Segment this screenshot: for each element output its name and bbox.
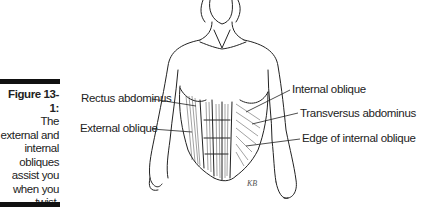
label-edge-internal-oblique: Edge of internal oblique [302, 132, 416, 144]
figure-number: Figure 13-1: [0, 88, 59, 115]
figure-caption: Figure 13-1: The external and internal o… [0, 88, 59, 210]
label-rectus-abdominus: Rectus abdominus [81, 92, 171, 104]
svg-text:KB: KB [246, 179, 257, 188]
label-transversus-abdominus: Transversus abdominus [300, 107, 416, 119]
label-external-oblique: External oblique [80, 122, 158, 134]
anatomy-illustration: KB Rectus abdominus External oblique Int… [60, 0, 430, 218]
caption-text: The external and internal obliques assis… [1, 115, 60, 208]
figure-caption-sidebar: Figure 13-1: The external and internal o… [0, 0, 60, 218]
caption-rule-bottom [0, 202, 60, 207]
caption-rule-top [0, 79, 60, 84]
label-internal-oblique: Internal oblique [292, 83, 366, 95]
